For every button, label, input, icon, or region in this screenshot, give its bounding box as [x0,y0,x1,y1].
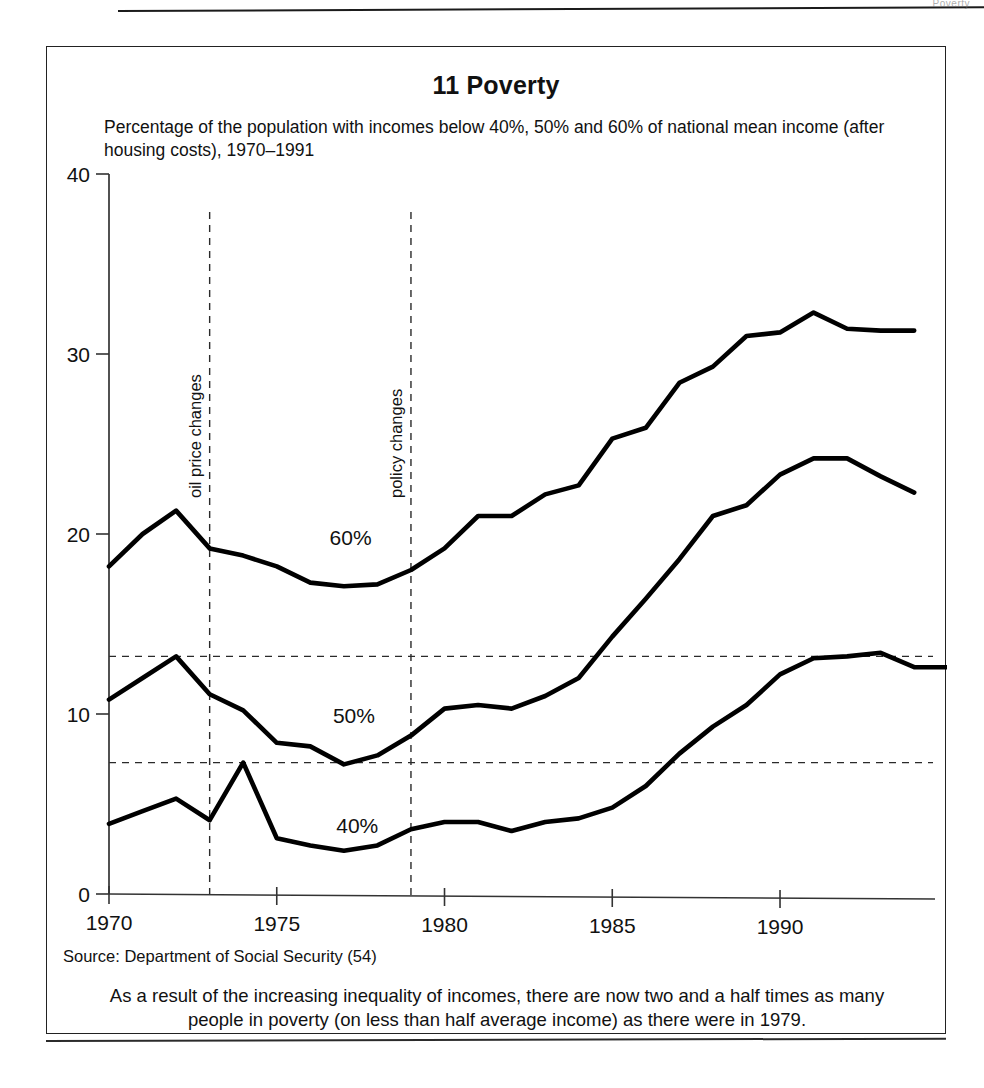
page-bottom-rule [46,1038,946,1042]
event-label: oil price changes [186,374,204,498]
series-line-40pct [109,653,947,851]
x-tick-label: 1990 [757,915,804,938]
series-label-60pct: 60% [330,526,372,549]
chart-event-labels: oil price changespolicy changes [186,374,405,498]
caption-line-1: As a result of the increasing inequality… [110,985,884,1006]
line-chart: 010203040 19701975198019851990 60%50%40%… [47,47,947,947]
series-label-40pct: 40% [336,814,378,837]
event-label: policy changes [387,389,405,498]
x-tick-label: 1985 [589,914,636,937]
x-axis-line [109,894,935,899]
series-line-50pct [109,458,914,764]
y-tick-label: 10 [67,703,90,726]
y-axis-tick-labels: 010203040 [67,163,90,906]
chart-axes [109,174,935,899]
x-tick-label: 1980 [421,913,468,936]
figure-panel: 11 Poverty Percentage of the population … [46,46,946,1034]
series-line-60pct [109,313,914,587]
y-tick-label: 40 [67,163,90,186]
figure-caption: As a result of the increasing inequality… [61,984,933,1032]
chart-plot-area: 010203040 19701975198019851990 60%50%40%… [47,47,947,1035]
page-header-crumb: Poverty [933,0,970,9]
page-top-rule [118,6,984,12]
y-tick-label: 20 [67,523,90,546]
caption-line-2: people in poverty (on less than half ave… [61,1008,933,1032]
series-label-50pct: 50% [333,704,375,727]
chart-tick-marks [96,174,780,908]
y-tick-label: 0 [78,883,90,906]
x-tick-label: 1970 [86,911,133,934]
x-axis-tick-labels: 19701975198019851990 [86,911,804,938]
y-tick-label: 30 [67,343,90,366]
x-tick-label: 1975 [253,912,300,935]
chart-series-labels: 60%50%40% [330,526,379,837]
source-note: Source: Department of Social Security (5… [63,947,377,966]
chart-series-lines [109,313,947,851]
